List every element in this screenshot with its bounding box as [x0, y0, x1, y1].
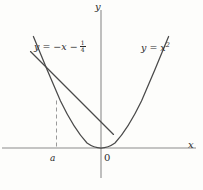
origin-label: 0 [104, 153, 110, 163]
tangent-equation-lead: y = −x − [34, 42, 78, 52]
parabola-equation-label: y = x2 [141, 42, 170, 53]
fraction-denominator: 4 [80, 47, 86, 53]
parabola-equation-lead: y = x [141, 42, 166, 53]
x-axis-label: x [188, 140, 194, 150]
tangent-equation-fraction: 1 4 [80, 40, 86, 54]
tangent-line-parabola-figure: x y 0 a y = x2 y = −x − 1 4 [0, 0, 203, 190]
figure-canvas [0, 0, 203, 190]
parabola-equation-exponent: 2 [166, 41, 170, 49]
x-tick-label-a: a [50, 154, 55, 163]
tangent-equation-label: y = −x − 1 4 [34, 40, 86, 54]
y-axis-label: y [95, 2, 101, 12]
